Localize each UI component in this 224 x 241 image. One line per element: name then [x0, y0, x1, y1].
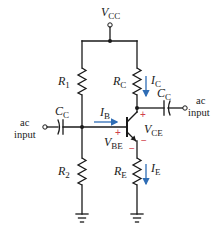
- r2-resistor: [78, 158, 86, 185]
- ground-icon: [76, 214, 88, 222]
- left-terminal-label-line2: input: [14, 129, 36, 140]
- vcc-supply: VCC: [101, 5, 120, 43]
- input-cap-label: CC: [55, 104, 69, 120]
- rc-resistor: [133, 68, 141, 95]
- vbe-plus-sign: +: [115, 127, 121, 138]
- re-resistor: [133, 158, 141, 185]
- vce-minus-sign: −: [141, 135, 147, 146]
- vbe-minus-sign: −: [129, 143, 135, 154]
- vce-plus-sign: +: [140, 109, 146, 120]
- rc-label: RC: [112, 74, 126, 90]
- right-terminal-label-line2: input: [188, 107, 210, 118]
- re-branch: RE IE: [113, 158, 161, 222]
- re-label: RE: [113, 164, 127, 180]
- ground-icon: [131, 214, 143, 222]
- output-cap-label: CC: [157, 86, 171, 102]
- r1-resistor: [78, 68, 86, 95]
- base-node: [80, 125, 84, 129]
- ie-label: IE: [150, 161, 161, 177]
- ib-label: IB: [99, 105, 110, 121]
- r1-branch: R1: [57, 41, 86, 158]
- vcc-label: VCC: [101, 5, 120, 21]
- output-terminal: [183, 106, 187, 110]
- bjt-amplifier-circuit: VCC R1 RC IC CC ac input ac input: [0, 0, 224, 241]
- rc-branch: RC IC: [112, 41, 161, 108]
- left-terminal-label-line1: ac: [20, 117, 30, 128]
- r2-branch: R2: [57, 158, 88, 222]
- r2-label: R2: [57, 164, 70, 180]
- vce-label: VCE: [144, 122, 163, 138]
- r1-label: R1: [57, 74, 70, 90]
- transistor-collector-lead: [127, 112, 137, 122]
- right-terminal-label-line1: ac: [196, 95, 206, 106]
